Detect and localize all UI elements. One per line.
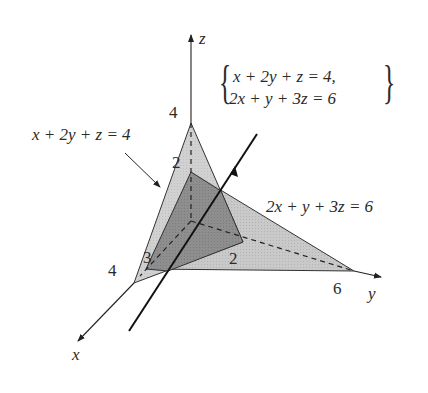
tick-y6: 6 bbox=[333, 279, 342, 298]
z-axis-label: z bbox=[198, 29, 206, 48]
tick-y2: 2 bbox=[229, 249, 238, 268]
x-axis bbox=[78, 283, 134, 341]
plane-2-equation: 2x + y + 3z = 6 bbox=[266, 197, 374, 216]
tick-x3: 3 bbox=[143, 248, 152, 267]
planes-diagram: z y x 4 2 4 3 2 6 x + 2y + z = 4 2x + y … bbox=[0, 0, 428, 393]
y-axis-label: y bbox=[366, 284, 376, 303]
system-right-brace: } bbox=[383, 57, 395, 108]
system-line-1: x + 2y + z = 4, bbox=[232, 67, 336, 86]
plane-1-pointer bbox=[125, 153, 160, 187]
x-axis-label: x bbox=[71, 345, 80, 364]
plane-1-equation: x + 2y + z = 4 bbox=[31, 125, 131, 144]
system-line-2: 2x + y + 3z = 6 bbox=[229, 89, 337, 108]
tick-z2: 2 bbox=[172, 153, 181, 172]
tick-x4: 4 bbox=[108, 261, 117, 280]
y-axis bbox=[354, 271, 381, 277]
tick-z4: 4 bbox=[169, 103, 178, 122]
